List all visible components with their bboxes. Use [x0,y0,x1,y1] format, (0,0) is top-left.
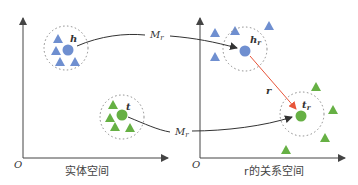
projected-head-label: hr [250,34,262,47]
left-origin-label: O [14,159,22,170]
tail-neighbor-triangle-icon [108,100,118,109]
triangle-icon [264,21,274,30]
tail-mapping-arrow [192,117,292,131]
triangle-icon [328,105,338,114]
tail-mapping-curve [128,117,170,132]
head-entity-point-icon [63,45,74,56]
tail-neighbor-triangle-icon [125,123,135,132]
tail-neighbor-triangle-icon [105,113,115,122]
head-neighbor-triangle-icon [55,57,65,66]
triangle-icon [230,26,240,35]
head-entity-cluster [44,26,88,70]
head-mapping-label: Mr [149,29,164,42]
head-neighbor-triangle-icon [70,57,80,66]
triangle-icon [320,133,330,142]
head-label: h [70,33,77,44]
projected-tail-label: tr [302,99,312,112]
relation-space-caption: r的关系空间 [244,164,304,178]
projected-head-cluster [223,27,267,71]
tail-neighbor-triangle-icon [110,122,120,131]
relation-vector-arrow [250,56,296,109]
entity-space-caption: 实体空间 [65,164,109,178]
projected-tail-point-icon [296,111,307,122]
head-neighbor-triangle-icon [53,34,63,43]
transr-diagram: O 实体空间 h t O r的关系空间 hr [0,0,358,185]
tail-label: t [126,101,131,112]
head-mapping-arrow [170,36,237,48]
relation-label: r [266,85,272,96]
triangle-icon [210,28,220,37]
triangle-icon [281,145,291,154]
right-origin-label: O [192,159,200,170]
tail-entity-cluster [100,95,144,139]
head-neighbor-triangle-icon [51,46,61,55]
projected-head-point-icon [240,46,251,57]
triangle-icon [311,82,321,91]
tail-mapping-label: Mr [174,126,189,139]
triangle-icon [210,52,220,61]
